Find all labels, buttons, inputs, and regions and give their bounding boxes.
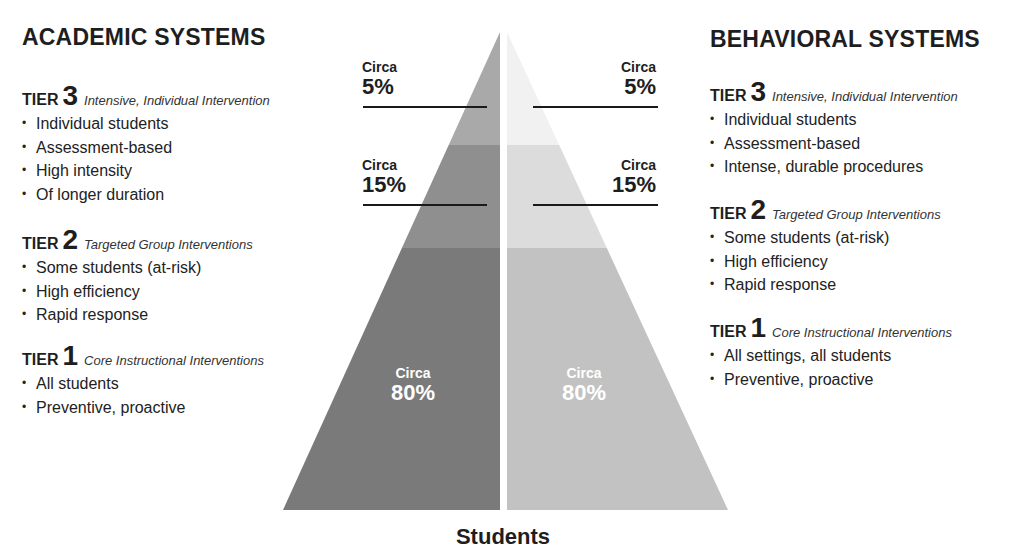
percent-value: 15% (596, 174, 656, 196)
circa-text: Circa (362, 60, 397, 74)
tier-subtitle: Targeted Group Interventions (772, 207, 941, 222)
list-item: High efficiency (710, 250, 941, 274)
percent-value: 5% (596, 76, 656, 98)
students-axis-label: Students (0, 524, 1006, 550)
percent-value: 15% (362, 174, 406, 196)
circa-text: Circa (384, 366, 442, 380)
behavioral-tier-2: TIER 2 Targeted Group Interventions Some… (710, 198, 941, 297)
list-item: Assessment-based (710, 132, 958, 156)
circa-text: Circa (555, 366, 613, 380)
left-15-percent-label: Circa 15% (362, 158, 406, 196)
pyramid-right-tier-2 (507, 145, 607, 248)
percent-value: 80% (555, 382, 613, 404)
tier-number: 3 (750, 80, 766, 104)
tier-bullet-list: Individual students Assessment-based Int… (710, 108, 958, 179)
tier-word: TIER (710, 205, 746, 223)
tier-bullet-list: Some students (at-risk) High efficiency … (710, 226, 941, 297)
circa-text: Circa (596, 60, 656, 74)
tier-subtitle: Core Instructional Interventions (772, 325, 952, 340)
left-80-percent-label: Circa 80% (384, 366, 442, 404)
right-15-percent-label: Circa 15% (596, 158, 656, 196)
tier-bullet-list: All settings, all students Preventive, p… (710, 344, 952, 391)
pyramid-left-tier-3 (449, 32, 500, 145)
left-5-percent-label: Circa 5% (362, 60, 397, 98)
tier-number: 1 (750, 316, 766, 340)
tier-word: TIER (710, 87, 746, 105)
pyramid-right-tier-3 (507, 32, 559, 145)
list-item: Rapid response (710, 273, 941, 297)
circa-text: Circa (362, 158, 406, 172)
behavioral-systems-title: BEHAVIORAL SYSTEMS (710, 26, 980, 53)
list-item: Intense, durable procedures (710, 155, 958, 179)
tier-subtitle: Intensive, Individual Intervention (772, 89, 958, 104)
percent-value: 80% (384, 382, 442, 404)
behavioral-tier-3: TIER 3 Intensive, Individual Interventio… (710, 80, 958, 179)
percent-value: 5% (362, 76, 397, 98)
list-item: All settings, all students (710, 344, 952, 368)
list-item: Individual students (710, 108, 958, 132)
pyramid-right-tier-1 (507, 248, 728, 510)
list-item: Preventive, proactive (710, 368, 952, 392)
behavioral-tier-1: TIER 1 Core Instructional Interventions … (710, 316, 952, 391)
pyramid-left-tier-2 (402, 145, 500, 248)
right-5-percent-label: Circa 5% (596, 60, 656, 98)
tier-number: 2 (750, 198, 766, 222)
right-80-percent-label: Circa 80% (555, 366, 613, 404)
list-item: Some students (at-risk) (710, 226, 941, 250)
tier-word: TIER (710, 323, 746, 341)
circa-text: Circa (596, 158, 656, 172)
